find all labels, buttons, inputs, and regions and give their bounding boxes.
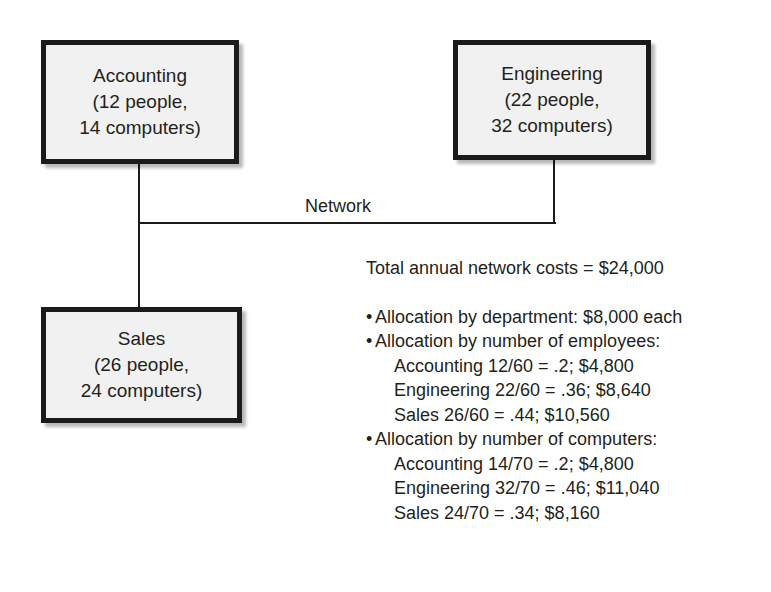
sales-people: (26 people, — [94, 352, 189, 378]
accounting-computers: 14 computers) — [79, 115, 200, 141]
computers-sales: Sales 24/70 = .34; $8,160 — [366, 501, 682, 526]
employees-sales: Sales 26/60 = .44; $10,560 — [366, 403, 682, 428]
accounting-to-sales-line — [138, 163, 140, 309]
engineering-box: Engineering (22 people, 32 computers) — [453, 40, 651, 160]
computers-accounting: Accounting 14/70 = .2; $4,800 — [366, 452, 682, 477]
accounting-people: (12 people, — [92, 89, 187, 115]
accounting-box: Accounting (12 people, 14 computers) — [41, 40, 239, 164]
employees-accounting: Accounting 12/60 = .2; $4,800 — [366, 354, 682, 379]
allocation-by-department: Allocation by department: $8,000 each — [366, 305, 682, 330]
network-label: Network — [305, 196, 371, 217]
engineering-people: (22 people, — [504, 87, 599, 113]
engineering-name: Engineering — [501, 61, 602, 87]
accounting-name: Accounting — [93, 63, 187, 89]
employees-engineering: Engineering 22/60 = .36; $8,640 — [366, 378, 682, 403]
engineering-computers: 32 computers) — [491, 113, 612, 139]
allocation-by-employees-heading: Allocation by number of employees: — [366, 329, 682, 354]
network-line — [138, 222, 556, 224]
computers-engineering: Engineering 32/70 = .46; $11,040 — [366, 476, 682, 501]
sales-computers: 24 computers) — [81, 378, 202, 404]
allocation-notes: Total annual network costs = $24,000 All… — [366, 256, 682, 525]
sales-box: Sales (26 people, 24 computers) — [41, 307, 242, 423]
engineering-drop-line — [553, 159, 555, 224]
allocation-by-computers-heading: Allocation by number of computers: — [366, 427, 682, 452]
total-cost: Total annual network costs = $24,000 — [366, 256, 682, 281]
sales-name: Sales — [118, 326, 166, 352]
